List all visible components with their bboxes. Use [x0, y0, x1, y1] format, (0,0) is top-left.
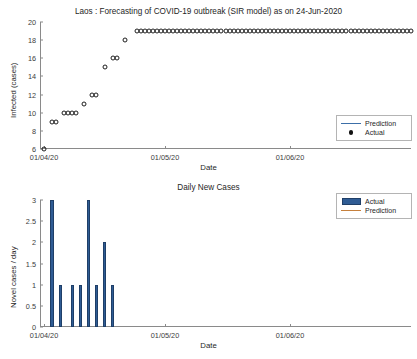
y-tick-label: 1.5 — [26, 259, 36, 268]
bar — [71, 285, 74, 327]
y-tick-mark — [40, 200, 43, 201]
x-tick-label: 01/06/20 — [276, 331, 304, 340]
daily-new-cases-ylabel: Novel cases / day — [9, 246, 18, 308]
x-tick-mark — [165, 146, 166, 149]
y-tick-mark — [40, 94, 43, 95]
x-tick-label: 01/06/20 — [276, 153, 304, 162]
legend-item-prediction-line: Prediction — [341, 206, 406, 215]
actual-bar-swatch-icon — [341, 198, 361, 205]
infected-chart-x-axis — [40, 148, 411, 149]
y-tick-mark — [40, 242, 43, 243]
infected-chart-legend: Prediction Actual — [336, 115, 412, 141]
x-tick-mark — [290, 146, 291, 149]
daily-new-cases-panel: Daily New Cases Novel cases / day 00.511… — [0, 180, 417, 359]
y-tick-mark — [40, 284, 43, 285]
daily-new-cases-xlabel: Date — [0, 341, 417, 350]
data-point-marker — [94, 92, 99, 97]
x-tick-label: 01/04/20 — [30, 153, 58, 162]
x-tick-mark — [165, 324, 166, 327]
data-point-marker — [114, 56, 119, 61]
y-tick-label: 10 — [28, 108, 36, 117]
infected-chart-title: Laos : Forecasting of COVID-19 outbreak … — [0, 7, 417, 16]
y-tick-mark — [40, 221, 43, 222]
legend-item-actual: Actual — [341, 128, 406, 137]
y-tick-label: 16 — [28, 54, 36, 63]
y-tick-mark — [40, 112, 43, 113]
legend-label-actual-bar: Actual — [365, 198, 384, 205]
y-tick-mark — [40, 58, 43, 59]
bar — [95, 285, 98, 327]
y-tick-mark — [40, 22, 43, 23]
y-tick-label: 1 — [32, 280, 36, 289]
y-tick-mark — [40, 40, 43, 41]
daily-new-cases-legend: Actual Prediction — [336, 193, 412, 219]
y-tick-label: 18 — [28, 36, 36, 45]
y-tick-label: 20 — [28, 18, 36, 27]
daily-new-cases-title: Daily New Cases — [0, 183, 417, 192]
x-tick-label: 01/04/20 — [30, 331, 58, 340]
data-point-marker — [82, 101, 87, 106]
bar — [87, 200, 90, 327]
matlab-figure: Laos : Forecasting of COVID-19 outbreak … — [0, 0, 417, 359]
y-tick-label: 0.5 — [26, 301, 36, 310]
data-point-marker — [42, 147, 47, 152]
legend-label-prediction: Prediction — [365, 120, 396, 127]
x-tick-label: 01/05/20 — [151, 153, 179, 162]
x-tick-label: 01/05/20 — [151, 331, 179, 340]
bar — [111, 285, 114, 327]
y-tick-label: 3 — [32, 196, 36, 205]
y-tick-mark — [40, 263, 43, 264]
bar — [59, 285, 62, 327]
prediction-line-swatch-orange-icon — [341, 210, 361, 211]
legend-label-prediction-line: Prediction — [365, 207, 396, 214]
y-tick-mark — [40, 327, 43, 328]
data-point-marker — [409, 29, 414, 34]
prediction-line-swatch-icon — [341, 123, 361, 124]
daily-new-cases-axes: 00.511.522.5301/04/2001/05/2001/06/20 — [40, 200, 411, 327]
legend-item-prediction: Prediction — [341, 119, 406, 128]
bar — [103, 242, 106, 327]
infected-chart-xlabel: Date — [0, 163, 417, 172]
x-tick-mark — [44, 324, 45, 327]
actual-dot-swatch-icon — [341, 130, 361, 134]
data-point-marker — [102, 65, 107, 70]
x-tick-mark — [290, 324, 291, 327]
y-tick-mark — [40, 305, 43, 306]
bar — [79, 285, 82, 327]
data-point-marker — [54, 119, 59, 124]
infected-chart-ylabel: Infected (cases) — [9, 63, 18, 118]
y-tick-mark — [40, 130, 43, 131]
data-point-marker — [74, 110, 79, 115]
bar — [50, 200, 53, 327]
legend-label-actual: Actual — [365, 129, 384, 136]
y-tick-label: 12 — [28, 90, 36, 99]
infected-chart-panel: Laos : Forecasting of COVID-19 outbreak … — [0, 0, 417, 180]
y-tick-label: 2.5 — [26, 217, 36, 226]
data-point-marker — [122, 38, 127, 43]
y-tick-label: 8 — [32, 126, 36, 135]
legend-item-actual-bar: Actual — [341, 197, 406, 206]
y-tick-mark — [40, 76, 43, 77]
y-tick-label: 2 — [32, 238, 36, 247]
y-tick-label: 14 — [28, 72, 36, 81]
